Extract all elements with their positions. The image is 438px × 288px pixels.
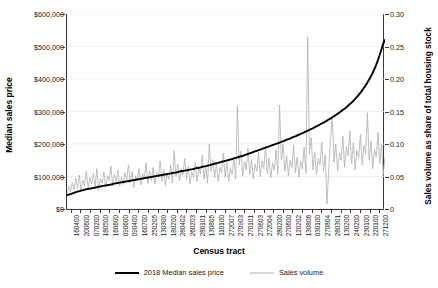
x-axis-tick-mark — [360, 209, 361, 213]
x-axis-tick-label: 160600 — [112, 215, 119, 236]
y-axis-left-tick-mark — [61, 79, 65, 80]
x-axis-tick-label: 271200 — [382, 215, 389, 236]
x-axis-tick-mark — [302, 209, 303, 213]
y-axis-left-tick-label: $600,000 — [34, 10, 64, 19]
y-axis-left-tick-label: $400,000 — [34, 75, 64, 84]
x-axis-tick-mark — [129, 209, 130, 213]
x-axis-tick-mark — [138, 209, 139, 213]
x-axis-tick-label: 270903 — [237, 215, 244, 236]
y-axis-left-tick-mark — [61, 209, 65, 210]
legend-swatch-line — [115, 270, 139, 276]
x-axis-tick-mark — [264, 209, 265, 213]
x-axis-tick-mark — [312, 209, 313, 213]
x-axis-tick-label: 180500 — [102, 215, 109, 236]
y-axis-right-tick-mark — [385, 209, 389, 210]
y-axis-right-tick-label: 0.15 — [390, 107, 404, 116]
x-axis-tick-label: 130806 — [305, 215, 312, 236]
y-axis-right-title: Sales volume as share of total housing s… — [420, 18, 436, 213]
legend-label: 2018 Median sales price — [144, 268, 224, 277]
y-axis-right-tick-mark — [385, 177, 389, 178]
y-axis-left-tick-label: $100,000 — [34, 172, 64, 181]
x-axis-tick-label: 272004 — [266, 215, 273, 236]
x-axis-tick-label: 280402 — [179, 215, 186, 236]
x-axis-tick-mark — [341, 209, 342, 213]
x-axis-tick-mark — [321, 209, 322, 213]
plot-svg — [67, 14, 385, 209]
x-axis-tick-label: 110100 — [218, 215, 225, 236]
chart-figure: Median sales price $600,000$500,000$400,… — [0, 0, 438, 288]
x-axis-tick-mark — [331, 209, 332, 213]
x-axis-tick-label: 280101 — [199, 215, 206, 236]
y-axis-left-title: Median sales price — [2, 40, 16, 190]
x-axis-tick-label: 030100 — [314, 215, 321, 236]
y-axis-right-tick-mark — [385, 14, 389, 15]
legend-item-median-price: 2018 Median sales price — [115, 268, 224, 277]
x-axis-tick-mark — [100, 209, 101, 213]
y-axis-right-tick-label: 0 — [390, 205, 394, 214]
y-axis-right-tick-label: 0.10 — [390, 140, 404, 149]
y-axis-right-tick-label: 0.30 — [390, 10, 404, 19]
x-axis-tick-label: 130200 — [343, 215, 350, 236]
x-axis-tick-mark — [225, 209, 226, 213]
x-axis-tick-mark — [177, 209, 178, 213]
y-axis-right-tick-mark — [385, 144, 389, 145]
y-axis-left-tick-mark — [61, 47, 65, 48]
legend-swatch-line — [250, 270, 274, 276]
y-axis-right-tick-label: 0.20 — [390, 75, 404, 84]
x-axis-tick-mark — [254, 209, 255, 213]
x-axis-tick-mark — [379, 209, 380, 213]
x-axis-tick-mark — [244, 209, 245, 213]
legend-item-sales-volume: Sales volume — [250, 268, 323, 277]
x-axis-tick-mark — [235, 209, 236, 213]
series-line-sales-volume — [67, 37, 385, 204]
x-axis-tick-label: 070200 — [93, 215, 100, 236]
y-axis-left-ticks: $600,000$500,000$400,000$300,000$200,000… — [16, 0, 64, 288]
x-axis-tick-label: 200600 — [83, 215, 90, 236]
x-axis-tick-label: 280200 — [276, 215, 283, 236]
x-axis-tick-mark — [283, 209, 284, 213]
x-axis-tick-mark — [148, 209, 149, 213]
x-axis-tick-label: 130300 — [160, 215, 167, 236]
x-axis-tick-label: 280301 — [334, 215, 341, 236]
x-axis-tick-mark — [273, 209, 274, 213]
x-axis-tick-mark — [158, 209, 159, 213]
y-axis-left-tick-mark — [61, 144, 65, 145]
x-axis-tick-mark — [292, 209, 293, 213]
y-axis-right-tick-label: 0.05 — [390, 172, 404, 181]
y-axis-right-tick-mark — [385, 47, 389, 48]
x-axis-tick-label: 270101 — [247, 215, 254, 236]
x-axis-tick-label: 270603 — [257, 215, 264, 236]
y-axis-left-tick-label: $200,000 — [34, 140, 64, 149]
x-axis-tick-label: 130805 — [208, 215, 215, 236]
x-axis-tick-mark — [109, 209, 110, 213]
x-axis-tick-label: 090600 — [122, 215, 129, 236]
x-axis-title: Census tract — [0, 246, 438, 256]
x-axis-tick-label: 090400 — [131, 215, 138, 236]
y-axis-right-tick-label: 0.25 — [390, 42, 404, 51]
x-axis-tick-mark — [215, 209, 216, 213]
legend-label: Sales volume — [279, 268, 323, 277]
x-axis-tick-label: 250205 — [151, 215, 158, 236]
y-axis-left-tick-label: $500,000 — [34, 42, 64, 51]
x-axis-tick-mark — [119, 209, 120, 213]
y-axis-right-tick-mark — [385, 112, 389, 113]
x-axis-tick-mark — [80, 209, 81, 213]
x-axis-tick-label: 220100 — [372, 215, 379, 236]
x-axis-tick-mark — [186, 209, 187, 213]
x-axis-tick-label: 240200 — [353, 215, 360, 236]
x-axis-tick-label: 180200 — [170, 215, 177, 236]
x-axis-tick-mark — [196, 209, 197, 213]
x-axis-tick-mark — [350, 209, 351, 213]
chart-legend: 2018 Median sales price Sales volume — [0, 268, 438, 277]
x-axis-tick-label: 272007 — [228, 215, 235, 236]
x-axis-tick-mark — [206, 209, 207, 213]
x-axis-tick-mark — [90, 209, 91, 213]
x-axis-tick-label: 270804 — [324, 215, 331, 236]
y-axis-right-ticks: 0.300.250.200.150.100.050 — [390, 0, 420, 288]
x-axis-tick-label: 120202 — [295, 215, 302, 236]
y-axis-left-tick-mark — [61, 112, 65, 113]
x-axis-tick-mark — [71, 209, 72, 213]
y-axis-left-tick-label: $300,000 — [34, 107, 64, 116]
x-axis-tick-label: 230100 — [363, 215, 370, 236]
x-axis-tick-mark — [167, 209, 168, 213]
